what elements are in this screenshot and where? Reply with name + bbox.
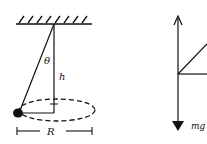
angle-label: θ: [44, 55, 50, 66]
ceiling: [16, 16, 92, 24]
pendulum-diagram: θ h R mg: [0, 0, 207, 144]
height-label: h: [59, 71, 65, 82]
pendulum-bob: [13, 109, 23, 118]
weight-label: mg: [191, 121, 206, 131]
force-diagram: [174, 16, 207, 124]
circular-path: [19, 99, 95, 121]
weight-arrowhead: [172, 121, 184, 131]
radius-label: R: [46, 126, 55, 137]
